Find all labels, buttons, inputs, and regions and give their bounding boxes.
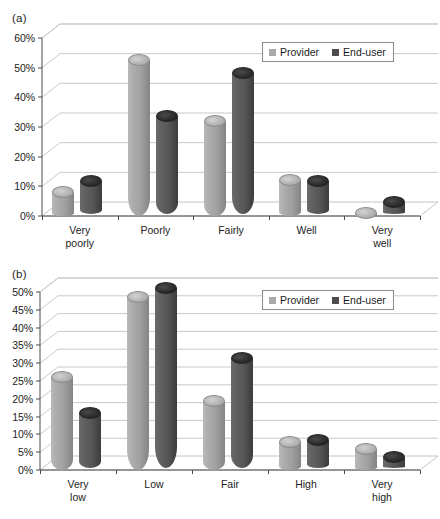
bar-cap-ellipse: [79, 407, 101, 419]
bar-body: [232, 73, 254, 214]
bar-body: [156, 116, 178, 214]
bar-provider: [128, 54, 150, 216]
bar-cap-ellipse: [156, 110, 178, 122]
bar-cap-ellipse: [204, 115, 226, 127]
bar-enduser: [383, 196, 405, 214]
y-axis-tick-mark: [36, 452, 40, 453]
bar-cap-ellipse: [232, 67, 254, 79]
bar-enduser: [155, 282, 177, 468]
chart-panel-b: (b) 0%5%10%15%20%25%30%35%40%45%50%Very …: [0, 262, 440, 519]
y-axis-tick-mark: [38, 186, 42, 187]
y-axis-tick-mark: [36, 292, 40, 293]
y-axis-tick-label: 30%: [0, 357, 33, 369]
legend-swatch-provider-icon: [269, 297, 276, 304]
bar-enduser: [79, 407, 101, 468]
x-axis-category-label: Fairly: [218, 224, 244, 237]
y-axis-tick-mark: [36, 381, 40, 382]
bar-provider: [51, 371, 73, 470]
legend-swatch-enduser-icon: [332, 297, 339, 304]
legend-swatch-enduser-icon: [332, 49, 339, 56]
y-axis-tick-mark: [38, 97, 42, 98]
x-axis-tick-mark: [420, 216, 421, 220]
plot-area-a: 0%10%20%30%40%50%60%Very poorlyPoorlyFai…: [0, 0, 440, 262]
x-axis-tick-mark: [40, 470, 41, 474]
x-axis-category-label: Fair: [221, 478, 239, 491]
legend-item-enduser: End-user: [332, 294, 386, 306]
chart-panel-a: (a) 0%10%20%30%40%50%60%Very poorlyPoorl…: [0, 0, 440, 262]
y-axis-tick-label: 10%: [0, 180, 35, 192]
x-axis-category-label: Well: [296, 224, 316, 237]
legend-swatch-provider-icon: [269, 49, 276, 56]
y-axis-tick-label: 30%: [0, 121, 35, 133]
y-axis-tick-label: 50%: [0, 62, 35, 74]
bar-cap-ellipse: [355, 443, 377, 455]
y-axis-tick-label: 0%: [0, 464, 33, 476]
y-axis-tick-mark: [38, 67, 42, 68]
y-axis-tick-mark: [36, 309, 40, 310]
bar-enduser: [156, 110, 178, 214]
bar-cap-ellipse: [383, 451, 405, 463]
legend-a: Provider End-user: [262, 42, 394, 62]
x-axis-tick-mark: [193, 216, 194, 220]
bar-cap-ellipse: [127, 291, 149, 303]
bar-provider: [279, 174, 301, 216]
y-axis-tick-mark: [38, 38, 42, 39]
legend-b: Provider End-user: [262, 290, 394, 310]
y-axis-tick-label: 10%: [0, 428, 33, 440]
x-axis-category-label: High: [295, 478, 317, 491]
legend-label-provider: Provider: [280, 46, 319, 58]
y-axis-tick-mark: [36, 416, 40, 417]
y-axis-tick-label: 20%: [0, 151, 35, 163]
bar-cap-ellipse: [231, 352, 253, 364]
y-axis-tick-mark: [36, 345, 40, 346]
x-axis-category-label: Very poorly: [65, 224, 94, 250]
bar-cap-ellipse: [355, 207, 377, 219]
bar-body: [128, 60, 150, 216]
legend-label-enduser: End-user: [343, 294, 386, 306]
bar-body: [203, 401, 225, 470]
x-axis-tick-mark: [42, 216, 43, 220]
y-axis-tick-label: 5%: [0, 446, 33, 458]
bar-body: [127, 297, 149, 470]
legend-item-provider: Provider: [269, 46, 319, 58]
y-axis-tick-label: 20%: [0, 393, 33, 405]
x-axis-category-label: Low: [144, 478, 163, 491]
y-axis-tick-label: 35%: [0, 339, 33, 351]
y-axis-tick-label: 50%: [0, 286, 33, 298]
y-axis-tick-label: 40%: [0, 91, 35, 103]
bar-provider: [279, 436, 301, 470]
y-axis-tick-mark: [38, 127, 42, 128]
bar-provider: [355, 443, 377, 470]
bar-cap-ellipse: [203, 395, 225, 407]
bar-cap-ellipse: [155, 282, 177, 294]
bar-provider: [203, 395, 225, 470]
figure-container: (a) 0%10%20%30%40%50%60%Very poorlyPoorl…: [0, 0, 440, 519]
y-axis-tick-label: 15%: [0, 411, 33, 423]
x-axis-tick-mark: [268, 470, 269, 474]
bar-enduser: [232, 67, 254, 214]
legend-label-provider: Provider: [280, 294, 319, 306]
x-axis-category-label: Poorly: [141, 224, 171, 237]
bar-enduser: [80, 175, 102, 214]
x-axis-tick-mark: [344, 470, 345, 474]
x-axis-tick-mark: [116, 470, 117, 474]
y-axis-tick-label: 45%: [0, 304, 33, 316]
bar-cap-ellipse: [279, 436, 301, 448]
bar-cap-ellipse: [307, 434, 329, 446]
x-axis-category-label: Very low: [67, 478, 88, 504]
bar-enduser: [383, 451, 405, 468]
y-axis-tick-mark: [36, 363, 40, 364]
x-axis-tick-mark: [192, 470, 193, 474]
x-axis-tick-mark: [269, 216, 270, 220]
bar-enduser: [307, 434, 329, 468]
legend-label-enduser: End-user: [343, 46, 386, 58]
bar-provider: [127, 291, 149, 470]
y-axis-tick-mark: [36, 434, 40, 435]
x-axis-category-label: Very well: [372, 224, 393, 250]
legend-item-provider: Provider: [269, 294, 319, 306]
x-axis-category-label: Very high: [371, 478, 392, 504]
y-axis-tick-mark: [38, 156, 42, 157]
bar-body: [155, 288, 177, 468]
bar-enduser: [307, 175, 329, 214]
y-axis-tick-mark: [36, 327, 40, 328]
